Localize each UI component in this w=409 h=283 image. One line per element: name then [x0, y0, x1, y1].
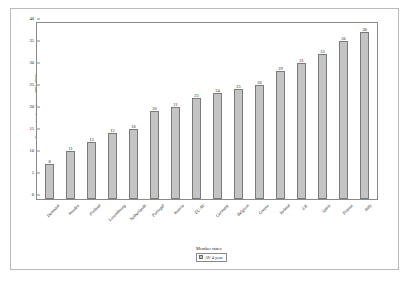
- bar-value-label: 33: [320, 49, 324, 54]
- y-axis-tick-label: 20: [29, 104, 37, 109]
- bar-slot: 36: [333, 23, 354, 199]
- bar-series: 8111315162021232425262931333638: [37, 23, 377, 199]
- bar[interactable]: 36: [339, 41, 348, 199]
- bar-value-label: 31: [299, 58, 303, 63]
- bar[interactable]: 11: [66, 151, 75, 199]
- bar[interactable]: 26: [255, 85, 264, 199]
- bar-slot: 26: [249, 23, 270, 199]
- bar-value-label: 24: [215, 88, 219, 93]
- legend-title: Member states: [196, 246, 227, 251]
- bar-slot: 38: [354, 23, 375, 199]
- bar-value-label: 36: [341, 36, 345, 41]
- bar-value-label: 15: [110, 128, 114, 133]
- bar[interactable]: 29: [276, 71, 285, 199]
- bar[interactable]: 24: [213, 93, 222, 199]
- legend-entry[interactable]: AV 4 year: [196, 253, 227, 262]
- bar-slot: 31: [291, 23, 312, 199]
- bar-value-label: 16: [131, 124, 135, 129]
- bar-slot: 15: [102, 23, 123, 199]
- bar-slot: 25: [228, 23, 249, 199]
- x-label-slot: Ireland: [270, 201, 291, 249]
- bar-slot: 21: [165, 23, 186, 199]
- x-label-slot: Denmark: [38, 201, 59, 249]
- x-axis-tick-label: Greece: [257, 203, 269, 215]
- x-axis-tick-label: France: [342, 203, 355, 216]
- bar-value-label: 38: [362, 27, 366, 32]
- bar-slot: 29: [270, 23, 291, 199]
- bar-value-label: 8: [48, 159, 50, 164]
- x-label-slot: Greece: [249, 201, 270, 249]
- bar[interactable]: 20: [150, 111, 159, 199]
- bar[interactable]: 31: [297, 63, 306, 199]
- x-axis-labels: DenmarkSwedenFinlandLuxembourgNetherland…: [36, 201, 378, 249]
- x-label-slot: France: [334, 201, 355, 249]
- x-axis-tick-label: EU AV: [194, 203, 206, 215]
- y-axis-tick-label: 35: [29, 38, 37, 43]
- x-label-slot: Sweden: [59, 201, 80, 249]
- bar-slot: 11: [60, 23, 81, 199]
- x-label-slot: Finland: [80, 201, 101, 249]
- y-axis-tick-label: 30: [29, 60, 37, 65]
- y-axis-tick-label: 25: [29, 82, 37, 87]
- legend-entry-label: AV 4 year: [205, 255, 223, 260]
- x-axis-tick-label: UK: [301, 203, 309, 211]
- bar[interactable]: 38: [360, 32, 369, 199]
- x-label-slot: Germany: [207, 201, 228, 249]
- x-label-slot: Netherlands: [123, 201, 144, 249]
- legend-swatch-icon: [199, 255, 203, 259]
- x-label-slot: Italy: [355, 201, 376, 249]
- bar[interactable]: 16: [129, 129, 138, 199]
- y-axis-tick-label: 15: [29, 126, 37, 131]
- x-axis-tick-label: Italy: [364, 203, 373, 212]
- x-axis-tick-label: Germany: [214, 203, 229, 218]
- bar-value-label: 29: [278, 66, 282, 71]
- x-axis-tick-label: Portugal: [151, 203, 166, 218]
- bar-value-label: 13: [89, 137, 93, 142]
- bar-slot: 8: [39, 23, 60, 199]
- bar-value-label: 20: [152, 106, 156, 111]
- bar[interactable]: 33: [318, 54, 327, 199]
- x-label-slot: UK: [292, 201, 313, 249]
- x-label-slot: Austria: [165, 201, 186, 249]
- chart-legend: Member states AV 4 year: [196, 246, 227, 262]
- bar-value-label: 26: [257, 80, 261, 85]
- x-axis-tick-label: Austria: [173, 203, 186, 216]
- bar-slot: 33: [312, 23, 333, 199]
- x-axis-tick-label: Belgium: [236, 203, 250, 217]
- bar[interactable]: 21: [171, 107, 180, 199]
- x-axis-tick-label: Spain: [321, 203, 332, 214]
- x-axis-tick-label: Ireland: [278, 203, 291, 216]
- bar-slot: 20: [144, 23, 165, 199]
- bar[interactable]: 23: [192, 98, 201, 199]
- y-axis-tick-label: 40: [29, 16, 37, 21]
- x-label-slot: Spain: [313, 201, 334, 249]
- bar-value-label: 11: [68, 146, 72, 151]
- bar[interactable]: 8: [45, 164, 54, 199]
- x-axis-tick-label: Finland: [88, 203, 101, 216]
- bar-slot: 24: [207, 23, 228, 199]
- bar-value-label: 21: [173, 102, 177, 107]
- bar-value-label: 25: [236, 84, 240, 89]
- bar[interactable]: 15: [108, 133, 117, 199]
- x-label-slot: Portugal: [144, 201, 165, 249]
- x-label-slot: EU AV: [186, 201, 207, 249]
- bar-slot: 16: [123, 23, 144, 199]
- bar-slot: 13: [81, 23, 102, 199]
- bar[interactable]: 13: [87, 142, 96, 199]
- plot-area: 0510152025303540 81113151620212324252629…: [36, 22, 378, 200]
- bar[interactable]: 25: [234, 89, 243, 199]
- x-axis-tick-label: Sweden: [67, 203, 80, 216]
- x-label-slot: Belgium: [228, 201, 249, 249]
- bar-value-label: 23: [194, 93, 198, 98]
- x-label-slot: Luxembourg: [101, 201, 122, 249]
- x-axis-tick-label: Denmark: [45, 203, 60, 218]
- chart-figure: Average number of cases 2001-2004 051015…: [0, 0, 409, 283]
- bar-slot: 23: [186, 23, 207, 199]
- y-axis-tick-label: 10: [29, 148, 37, 153]
